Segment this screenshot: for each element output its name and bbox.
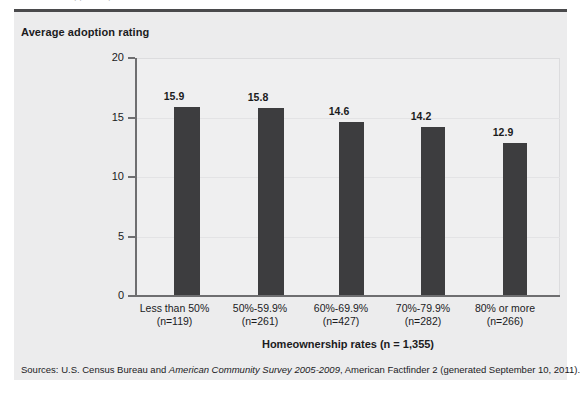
clipped-caption-text: unreadable clipped caption line: [14, 0, 147, 1]
y-tick-mark-20: [128, 57, 135, 59]
category-count-less-than-50: (n=119): [137, 315, 212, 328]
bar-60-69-9: [339, 122, 364, 296]
category-name-50-59-9: 50%-59.9%: [233, 302, 287, 314]
category-label-less-than-50: Less than 50% (n=119): [137, 302, 212, 328]
bar-80-or-more: [503, 143, 527, 296]
plot-area: [136, 58, 560, 296]
bar-value-70-79-9: 14.2: [396, 110, 446, 122]
figure-container: unreadable clipped caption line Average …: [0, 0, 581, 393]
bar-value-60-69-9: 14.6: [314, 105, 364, 117]
bar-value-80-or-more: 12.9: [478, 126, 528, 138]
clipped-caption-strip: unreadable clipped caption line: [0, 0, 581, 8]
category-name-70-79-9: 70%-79.9%: [396, 302, 450, 314]
x-axis-spine: [136, 295, 560, 297]
category-count-80-or-more: (n=266): [469, 315, 541, 328]
category-name-60-69-9: 60%-69.9%: [314, 302, 368, 314]
category-count-70-79-9: (n=282): [388, 315, 458, 328]
source-note-suffix: , American Factfinder 2 (generated Septe…: [340, 364, 580, 375]
bar-value-less-than-50: 15.9: [149, 90, 199, 102]
category-name-less-than-50: Less than 50%: [140, 302, 209, 314]
source-note-italic-title: American Community Survey 2005-2009: [169, 364, 340, 375]
bar-50-59-9: [258, 108, 284, 296]
y-tick-mark-5: [128, 236, 135, 238]
source-note: Sources: U.S. Census Bureau and American…: [21, 364, 566, 375]
category-label-50-59-9: 50%-59.9% (n=261): [225, 302, 295, 328]
bar-less-than-50: [174, 107, 200, 296]
category-count-50-59-9: (n=261): [225, 315, 295, 328]
y-tick-label-5: 5: [98, 230, 124, 242]
y-tick-label-15: 15: [98, 111, 124, 123]
y-tick-label-20: 20: [98, 51, 124, 63]
source-note-prefix: Sources: U.S. Census Bureau and: [21, 364, 169, 375]
y-axis-title: Average adoption rating: [21, 26, 149, 38]
y-tick-label-0: 0: [98, 289, 124, 301]
x-axis-title: Homeownership rates (n = 1,355): [136, 338, 560, 350]
y-tick-mark-10: [128, 176, 135, 178]
y-tick-mark-15: [128, 117, 135, 119]
category-count-60-69-9: (n=427): [306, 315, 376, 328]
y-tick-mark-0: [128, 295, 135, 297]
y-tick-label-10: 10: [98, 170, 124, 182]
category-name-80-or-more: 80% or more: [475, 302, 535, 314]
category-label-70-79-9: 70%-79.9% (n=282): [388, 302, 458, 328]
category-label-60-69-9: 60%-69.9% (n=427): [306, 302, 376, 328]
bar-value-50-59-9: 15.8: [233, 91, 283, 103]
bar-70-79-9: [421, 127, 445, 296]
category-label-80-or-more: 80% or more (n=266): [469, 302, 541, 328]
y-axis-spine: [135, 58, 137, 297]
